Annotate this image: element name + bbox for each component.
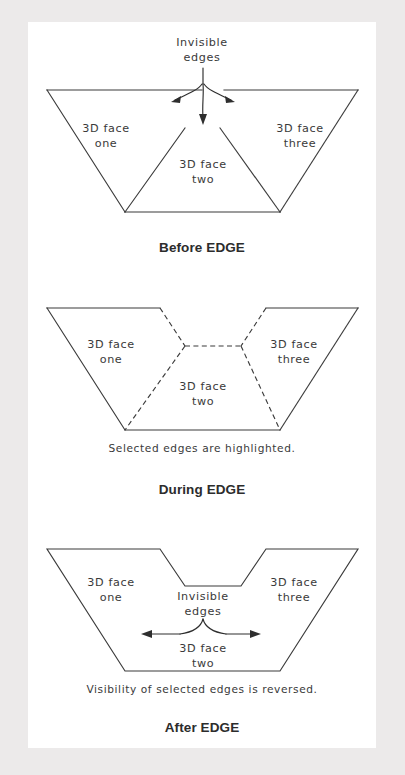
drawing-before-edge: Invisible edges 3D face one 3D face two … — [28, 22, 376, 232]
selected-edge-top-right — [241, 308, 266, 346]
face-two-line1: 3D face — [179, 380, 226, 393]
edge-outer-left — [47, 90, 125, 212]
face-three-line2: three — [284, 137, 317, 150]
face-two-line1: 3D face — [179, 158, 226, 171]
face-one-line1: 3D face — [82, 122, 129, 135]
drawing-during-edge: 3D face one 3D face two 3D face three Se… — [28, 274, 376, 472]
face-two-line2: two — [192, 657, 214, 670]
edge-outer-left — [47, 308, 125, 430]
face-two-line2: two — [192, 395, 214, 408]
callout-line1: Invisible — [176, 36, 228, 49]
face-one-line2: one — [95, 137, 118, 150]
figure-page: Invisible edges 3D face one 3D face two … — [0, 0, 405, 775]
callout-line1: Invisible — [177, 590, 229, 603]
face-three-line2: three — [278, 591, 311, 604]
face-three-line1: 3D face — [270, 338, 317, 351]
callout-arrows — [171, 68, 235, 125]
selected-edge-top-left — [160, 308, 185, 346]
arrow-left-head — [141, 630, 152, 638]
caption-before-edge: Before EDGE — [28, 240, 376, 255]
arrow-left-head — [171, 96, 181, 103]
edge-outer-right — [280, 90, 358, 212]
edge-inner-left — [125, 128, 185, 212]
face-three-line2: three — [278, 353, 311, 366]
drawing-after-edge: Invisible edges 3D face one 3D face two … — [28, 520, 376, 712]
panel-note: Selected edges are highlighted. — [109, 442, 296, 454]
panel-note: Visibility of selected edges is reversed… — [86, 683, 317, 695]
callout-arrows — [141, 619, 261, 638]
face-one-line1: 3D face — [87, 338, 134, 351]
panel-before-edge: Invisible edges 3D face one 3D face two … — [28, 22, 376, 274]
callout-line2: edges — [185, 605, 222, 618]
caption-after-edge: After EDGE — [28, 720, 376, 735]
arrow-right-head — [225, 96, 235, 103]
face-one-line2: one — [100, 591, 123, 604]
face-one-line1: 3D face — [87, 576, 134, 589]
figure-paper: Invisible edges 3D face one 3D face two … — [28, 22, 376, 748]
face-two-line1: 3D face — [179, 642, 226, 655]
panel-during-edge: 3D face one 3D face two 3D face three Se… — [28, 274, 376, 520]
arrow-down-head — [199, 114, 207, 125]
selected-edge-inner-right — [241, 346, 280, 430]
arrow-right-curve — [203, 619, 226, 634]
face-two-line2: two — [192, 173, 214, 186]
arrow-down-curve — [203, 84, 204, 118]
face-three-line1: 3D face — [276, 122, 323, 135]
arrow-left-curve — [180, 619, 203, 634]
caption-during-edge: During EDGE — [28, 482, 376, 497]
face-three-line1: 3D face — [270, 576, 317, 589]
callout-line2: edges — [184, 51, 221, 64]
arrow-right-head — [250, 630, 261, 638]
edge-inner-right — [220, 128, 280, 212]
selected-edge-inner-left — [125, 346, 185, 430]
face-one-line2: one — [100, 353, 123, 366]
edge-outer-right — [280, 308, 358, 430]
panel-after-edge: Invisible edges 3D face one 3D face two … — [28, 520, 376, 748]
